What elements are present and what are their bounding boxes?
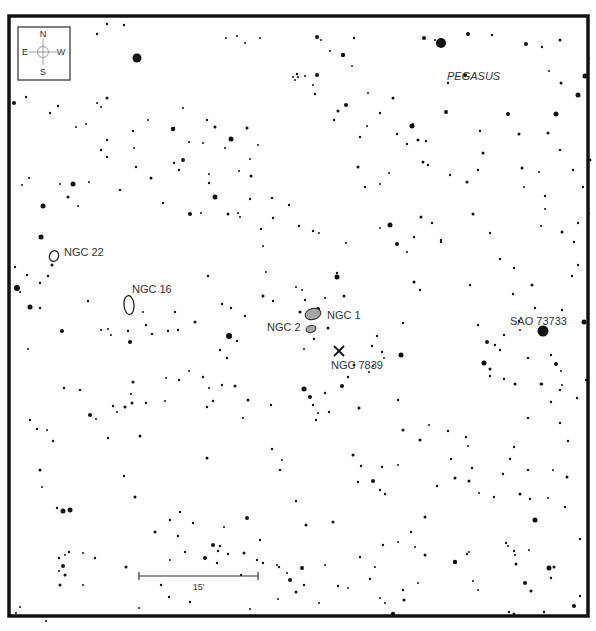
star bbox=[96, 33, 98, 35]
star bbox=[194, 321, 197, 324]
star bbox=[249, 198, 251, 200]
star bbox=[374, 566, 376, 568]
star bbox=[379, 183, 381, 185]
star bbox=[184, 551, 186, 553]
star bbox=[514, 383, 517, 386]
star bbox=[14, 266, 16, 268]
star bbox=[444, 110, 448, 114]
star bbox=[123, 24, 125, 26]
star bbox=[26, 274, 28, 276]
star bbox=[14, 285, 20, 291]
star bbox=[256, 559, 258, 561]
star bbox=[403, 599, 406, 602]
star bbox=[200, 212, 202, 214]
star bbox=[359, 556, 361, 558]
star bbox=[25, 96, 27, 98]
star bbox=[286, 572, 288, 574]
star bbox=[139, 435, 142, 438]
star bbox=[572, 169, 574, 171]
star bbox=[68, 551, 70, 553]
star bbox=[110, 334, 112, 336]
star bbox=[216, 562, 218, 564]
star bbox=[519, 329, 521, 331]
star bbox=[524, 42, 528, 46]
star bbox=[357, 481, 359, 483]
star bbox=[505, 542, 507, 544]
star bbox=[288, 578, 292, 582]
star bbox=[344, 103, 348, 107]
star bbox=[262, 245, 264, 247]
star bbox=[422, 36, 426, 40]
star bbox=[368, 371, 370, 373]
star bbox=[224, 147, 226, 149]
star bbox=[27, 348, 29, 350]
star bbox=[296, 73, 298, 75]
star bbox=[561, 231, 564, 234]
star bbox=[436, 38, 446, 48]
star bbox=[506, 112, 510, 116]
star bbox=[324, 297, 326, 299]
star bbox=[559, 389, 561, 391]
star bbox=[381, 351, 383, 353]
star bbox=[95, 418, 97, 420]
star bbox=[315, 73, 319, 77]
star bbox=[41, 486, 43, 488]
star bbox=[96, 102, 98, 104]
star bbox=[160, 584, 162, 586]
star bbox=[227, 553, 229, 555]
star bbox=[304, 75, 306, 77]
star bbox=[447, 430, 449, 432]
object-label: NGC 16 bbox=[132, 283, 172, 295]
star bbox=[257, 144, 259, 146]
scale-bar-label: 15' bbox=[193, 582, 205, 592]
star bbox=[469, 284, 471, 286]
star bbox=[208, 387, 210, 389]
star bbox=[534, 307, 536, 309]
star bbox=[132, 130, 134, 132]
star bbox=[335, 275, 340, 280]
star bbox=[559, 39, 562, 42]
star bbox=[358, 407, 361, 410]
star bbox=[223, 526, 225, 528]
star bbox=[278, 566, 280, 568]
star bbox=[425, 140, 427, 142]
star bbox=[262, 562, 264, 564]
star bbox=[304, 299, 306, 301]
star bbox=[300, 566, 304, 570]
star bbox=[449, 174, 451, 176]
star bbox=[509, 458, 511, 460]
star bbox=[271, 448, 273, 450]
star bbox=[550, 401, 552, 403]
star bbox=[352, 454, 355, 457]
star bbox=[392, 97, 395, 100]
star bbox=[305, 524, 308, 527]
star bbox=[100, 329, 102, 331]
star bbox=[576, 397, 578, 399]
star bbox=[414, 546, 416, 548]
star bbox=[212, 400, 214, 402]
star bbox=[396, 133, 398, 135]
star bbox=[499, 258, 501, 260]
star bbox=[466, 553, 468, 555]
star bbox=[29, 419, 31, 421]
star bbox=[513, 267, 515, 269]
star bbox=[207, 275, 209, 277]
star bbox=[230, 307, 232, 309]
star bbox=[544, 195, 546, 197]
star bbox=[88, 181, 90, 183]
star bbox=[12, 101, 16, 105]
star bbox=[502, 473, 504, 475]
star bbox=[77, 205, 79, 207]
star bbox=[242, 417, 244, 419]
star bbox=[165, 377, 167, 379]
star bbox=[238, 170, 240, 172]
star bbox=[39, 235, 44, 240]
star bbox=[566, 476, 569, 479]
star bbox=[106, 23, 108, 25]
star bbox=[124, 406, 127, 409]
star bbox=[164, 400, 166, 402]
star bbox=[340, 384, 344, 388]
star bbox=[75, 126, 77, 128]
star bbox=[262, 295, 265, 298]
star bbox=[518, 133, 521, 136]
